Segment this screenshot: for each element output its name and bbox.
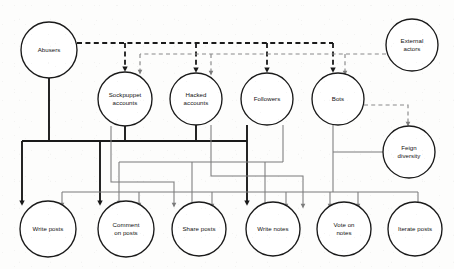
edge-sock-to-writenotes-right xyxy=(111,126,174,205)
diagram-svg: AbusersExternalactorsSockpuppetaccountsH… xyxy=(0,0,454,269)
node-label-bots: Bots xyxy=(332,95,344,102)
node-writeposts[interactable]: Write posts xyxy=(20,201,76,257)
nodes-layer: AbusersExternalactorsSockpuppetaccountsH… xyxy=(20,19,442,257)
node-followers[interactable]: Followers xyxy=(241,73,293,125)
diagram-canvas: AbusersExternalactorsSockpuppetaccountsH… xyxy=(0,0,454,269)
node-feign[interactable]: Feigndiversity xyxy=(383,126,435,178)
node-voteonnotes[interactable]: Vote onnotes xyxy=(317,202,371,256)
node-writenotes[interactable]: Write notes xyxy=(246,202,300,256)
node-label-iterate: Iterate posts xyxy=(398,225,432,232)
node-label-shareposts: Share posts xyxy=(182,225,215,232)
node-hacked[interactable]: Hackedaccounts xyxy=(170,73,222,125)
node-abusers[interactable]: Abusers xyxy=(21,22,77,78)
node-label-voteonnotes: Vote onnotes xyxy=(333,221,354,235)
node-label-followers: Followers xyxy=(254,95,281,102)
edge-group-secondary-bus-lower xyxy=(62,125,418,206)
node-label-abusers: Abusers xyxy=(38,46,61,53)
node-label-hacked: Hackedaccounts xyxy=(184,91,209,105)
node-label-writenotes: Write notes xyxy=(257,225,288,232)
edge-bots-to-feign xyxy=(364,105,408,124)
edge-hacked-to-vote xyxy=(211,125,303,206)
node-bots[interactable]: Bots xyxy=(312,73,364,125)
node-comment[interactable]: Commenton posts xyxy=(98,201,154,257)
node-label-external: Externalactors xyxy=(401,37,424,51)
node-external[interactable]: Externalactors xyxy=(386,19,438,71)
node-iterate[interactable]: Iterate posts xyxy=(388,202,442,256)
node-label-comment: Commenton posts xyxy=(113,221,140,235)
node-label-sockpuppet: Sockpuppetaccounts xyxy=(109,91,142,105)
edge-group-secondary-bus-upper xyxy=(119,125,283,205)
node-sockpuppet[interactable]: Sockpuppetaccounts xyxy=(98,72,152,126)
node-shareposts[interactable]: Share posts xyxy=(172,202,226,256)
node-label-writeposts: Write posts xyxy=(33,225,64,232)
edge-group-vote-feed xyxy=(111,125,303,206)
